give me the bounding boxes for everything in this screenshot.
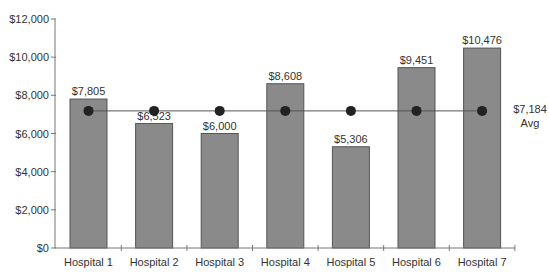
bar-value-label: $10,476 (462, 34, 502, 46)
average-marker (346, 106, 356, 116)
y-tick-label: $2,000 (15, 204, 49, 216)
chart-canvas: $7,805$6,523$6,000$8,608$5,306$9,451$10,… (0, 0, 549, 280)
category-label: Hospital 6 (392, 256, 441, 268)
bar (70, 99, 107, 248)
bar-value-label: $8,608 (268, 70, 302, 82)
bar (332, 147, 369, 248)
bar-value-label: $6,000 (203, 120, 237, 132)
y-tick-label: $4,000 (15, 166, 49, 178)
y-tick-label: $6,000 (15, 128, 49, 140)
average-marker (215, 106, 225, 116)
bar-value-label: $7,805 (72, 85, 106, 97)
bar-value-label: $5,306 (334, 133, 368, 145)
bar (201, 134, 238, 249)
category-label: Hospital 7 (458, 256, 507, 268)
bar (136, 124, 173, 248)
category-label: Hospital 3 (195, 256, 244, 268)
average-marker (477, 106, 487, 116)
bar-chart: $7,805$6,523$6,000$8,608$5,306$9,451$10,… (0, 0, 549, 280)
bar (398, 68, 435, 248)
y-tick-label: $8,000 (15, 89, 49, 101)
average-marker (412, 106, 422, 116)
average-text-label: Avg (521, 117, 540, 129)
y-tick-label: $10,000 (9, 51, 49, 63)
category-label: Hospital 1 (64, 256, 113, 268)
bars-group: $7,805$6,523$6,000$8,608$5,306$9,451$10,… (70, 34, 502, 248)
category-label: Hospital 5 (326, 256, 375, 268)
y-tick-label: $0 (37, 242, 49, 254)
average-value-label: $7,184 (513, 103, 547, 115)
average-marker (84, 106, 94, 116)
average-marker (149, 106, 159, 116)
average-marker (280, 106, 290, 116)
bar (464, 48, 501, 248)
bar-value-label: $9,451 (400, 54, 434, 66)
category-label: Hospital 2 (130, 256, 179, 268)
category-label: Hospital 4 (261, 256, 310, 268)
y-tick-label: $12,000 (9, 13, 49, 25)
